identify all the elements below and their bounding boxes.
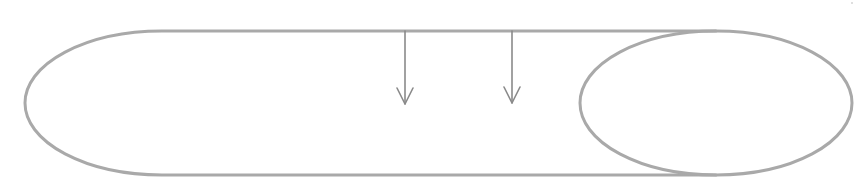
- arrow-1: [397, 31, 413, 104]
- outer-capsule-outline: [25, 31, 716, 175]
- outer-capsule: [25, 31, 716, 175]
- arrow-2: [504, 31, 520, 103]
- tube-diagram: [0, 0, 868, 185]
- downward-arrows: [397, 31, 520, 104]
- corner-speck: [851, 2, 853, 4]
- inner-end-ellipse: [580, 31, 852, 175]
